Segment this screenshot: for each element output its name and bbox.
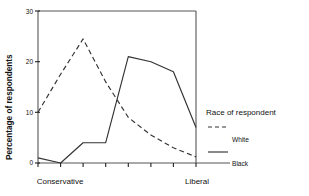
- line-chart: Percentage of respondents 0 10 20 30: [0, 0, 309, 196]
- legend-label-black: Black: [232, 160, 249, 167]
- x-axis-label-right: Liberal: [185, 177, 209, 186]
- legend-title: Race of respondent: [206, 108, 277, 117]
- legend: Race of respondent White Black: [206, 108, 277, 167]
- legend-entry-white[interactable]: White: [208, 127, 249, 143]
- x-axis-ticks: [38, 163, 196, 167]
- y-tick-label-30: 30: [26, 8, 34, 15]
- legend-entry-black[interactable]: Black: [208, 152, 249, 167]
- series-group: [38, 39, 196, 163]
- y-axis-title: Percentage of respondents: [5, 54, 14, 160]
- chart-container: Percentage of respondents 0 10 20 30: [0, 0, 309, 196]
- y-tick-label-10: 10: [26, 109, 34, 116]
- plot-axes: [38, 11, 230, 163]
- y-tick-label-20: 20: [26, 58, 34, 65]
- y-tick-label-0: 0: [29, 159, 33, 166]
- legend-label-white: White: [232, 136, 249, 143]
- x-axis-label-left: Conservative: [37, 177, 84, 186]
